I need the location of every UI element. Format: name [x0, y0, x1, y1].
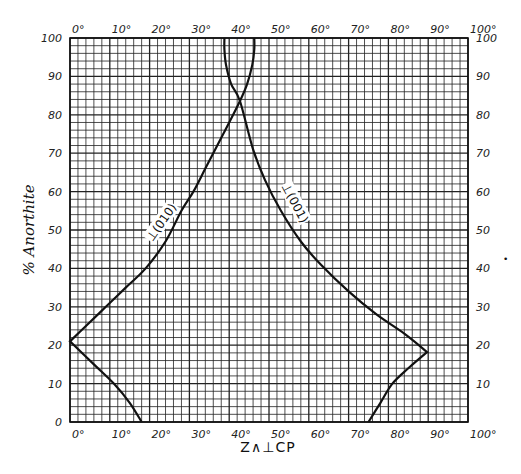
y-tick-label: 10 [48, 378, 62, 391]
y-tick-label-right: 20 [476, 339, 490, 352]
x-tick-label-top: 30° [191, 23, 211, 36]
x-tick-label-top: 50° [271, 23, 291, 36]
x-tick-label: 0° [72, 428, 85, 441]
y-tick-label: 70 [48, 147, 62, 160]
x-tick-label: 60° [311, 428, 331, 441]
x-tick-label-top: 70° [351, 23, 371, 36]
x-tick-label-top: 20° [152, 23, 172, 36]
x-tick-label-top: 0° [72, 23, 85, 36]
y-tick-label: 60 [48, 186, 62, 199]
y-axis-title: % Anorthite [20, 184, 38, 275]
x-tick-label: 20° [152, 428, 172, 441]
x-tick-label-top: 40° [231, 23, 251, 36]
x-tick-label-top: 60° [311, 23, 331, 36]
x-tick-label: 100° [470, 428, 497, 441]
y-tick-label-right: 60 [476, 186, 490, 199]
anorthite-extinction-chart: ⊥(010)⊥(001) 0°10°20°30°40°50°60°70°80°9… [0, 0, 521, 474]
y-tick-label-right: 80 [476, 109, 490, 122]
grid-major-lines [70, 38, 468, 422]
curve-labels: ⊥(010)⊥(001) [142, 180, 312, 244]
y-tick-label: 0 [55, 416, 62, 429]
x-tick-label-top: 10° [112, 23, 132, 36]
stray-mark: • [503, 254, 508, 264]
y-tick-label-right: 50 [476, 224, 490, 237]
x-axis-ticks-top: 0°10°20°30°40°50°60°70°80°90°100° [72, 23, 497, 36]
y-tick-label: 80 [48, 109, 62, 122]
x-tick-label: 70° [351, 428, 371, 441]
x-axis-title: Z∧⊥CP [240, 439, 295, 455]
curve-label-001: ⊥(001) [279, 181, 311, 225]
y-axis-ticks-left: 0102030405060708090100 [41, 32, 62, 429]
y-tick-label-right: 90 [476, 70, 490, 83]
x-tick-label: 80° [390, 428, 410, 441]
y-tick-label-right: 40 [476, 262, 490, 275]
y-tick-label: 20 [48, 339, 62, 352]
x-tick-label: 30° [191, 428, 211, 441]
y-tick-label: 100 [41, 32, 62, 45]
y-tick-label-right: 30 [476, 301, 490, 314]
y-tick-label: 50 [48, 224, 62, 237]
x-tick-label: 10° [112, 428, 132, 441]
x-tick-label-top: 80° [390, 23, 410, 36]
y-axis-ticks-right: 102030405060708090100 [476, 32, 497, 391]
y-tick-label: 40 [48, 262, 62, 275]
x-tick-label: 90° [430, 428, 450, 441]
y-tick-label-right: 70 [476, 147, 490, 160]
y-tick-label-right: 10 [476, 378, 490, 391]
y-tick-label: 30 [48, 301, 62, 314]
x-tick-label-top: 90° [430, 23, 450, 36]
y-tick-label-right: 100 [476, 32, 497, 45]
y-tick-label: 90 [48, 70, 62, 83]
